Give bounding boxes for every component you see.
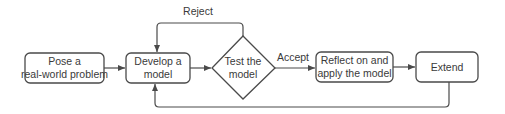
node-pose-line1: Pose a — [48, 55, 81, 67]
node-develop-model: Develop a model — [126, 53, 190, 83]
node-reflect-apply: Reflect on and apply the model — [316, 52, 393, 82]
edge-accept: Accept — [275, 51, 315, 68]
node-test-line1: Test the — [225, 55, 262, 67]
node-develop-line2: model — [144, 68, 173, 80]
node-extend: Extend — [416, 52, 478, 82]
node-pose-line2: real-world problem — [21, 68, 108, 80]
accept-label: Accept — [277, 51, 309, 63]
node-extend-line1: Extend — [431, 61, 464, 73]
reject-label: Reject — [183, 5, 213, 17]
node-test-line2: model — [229, 68, 258, 80]
node-test-model: Test the model — [212, 36, 275, 99]
node-reflect-line2: apply the model — [317, 67, 391, 79]
flowchart-canvas: Reject Accept Pose a real-world problem … — [0, 0, 505, 114]
node-reflect-line1: Reflect on and — [321, 54, 389, 66]
edge-reject-loop: Reject — [157, 5, 243, 52]
node-develop-line1: Develop a — [134, 55, 181, 67]
node-pose-problem: Pose a real-world problem — [21, 53, 108, 83]
edge-extend-return-loop — [155, 82, 449, 107]
